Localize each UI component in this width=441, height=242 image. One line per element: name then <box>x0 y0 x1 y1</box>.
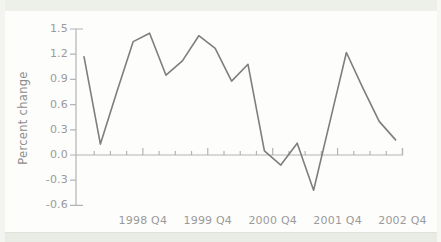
figure-page: Percent change 1.51.20.90.60.30.0-0.3-0.… <box>0 0 441 242</box>
x-tick-label: 1998 Q4 <box>111 214 175 227</box>
percent-change-series <box>84 33 396 190</box>
y-tick-label: -0.6 <box>38 198 68 211</box>
x-tick-label: 1999 Q4 <box>176 214 240 227</box>
y-axis-title: Percent change <box>16 58 32 178</box>
x-tick-label: 2002 Q4 <box>371 214 435 227</box>
y-tick-label: 1.5 <box>38 22 68 35</box>
y-tick-label: 0.9 <box>38 72 68 85</box>
x-tick-label: 2000 Q4 <box>241 214 305 227</box>
y-tick-label: 0.6 <box>38 98 68 111</box>
x-axis-ticks <box>94 148 402 155</box>
y-tick-label: 0.0 <box>38 148 68 161</box>
y-axis-ticks <box>70 29 76 205</box>
y-axis-line <box>76 29 83 205</box>
y-tick-label: 0.3 <box>38 123 68 136</box>
y-tick-label: -0.3 <box>38 173 68 186</box>
x-tick-label: 2001 Q4 <box>306 214 370 227</box>
y-tick-label: 1.2 <box>38 47 68 60</box>
